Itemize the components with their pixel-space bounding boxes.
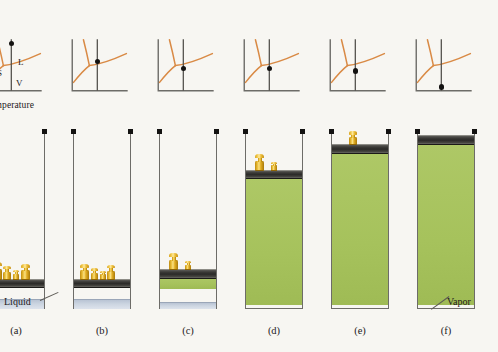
- phase-region-label-liquid: L: [18, 57, 24, 67]
- liquid-region: [160, 302, 215, 309]
- cylinder-wall-right: [216, 131, 217, 308]
- callout-liquid: Liquid: [4, 296, 31, 307]
- weight-body: [0, 269, 2, 280]
- phase-curve-2: [433, 54, 470, 66]
- cylinder-cap-right: [128, 129, 133, 134]
- weight-4: [107, 265, 115, 279]
- cylinder-floor: [417, 308, 475, 309]
- weight-body: [185, 265, 191, 270]
- state-point-marker-d: [267, 66, 272, 71]
- weight-2: [185, 261, 191, 269]
- weight-top: [21, 264, 30, 268]
- cylinder-wall-right: [130, 131, 131, 308]
- weight-body: [21, 270, 30, 279]
- weight-body: [3, 272, 11, 280]
- cylinder-c: [159, 131, 217, 310]
- weight-body: [107, 271, 115, 280]
- cylinder-wall-right: [474, 131, 475, 308]
- piston: [332, 144, 387, 154]
- vapor-region: [332, 152, 387, 305]
- phase-diagram-f: [407, 38, 473, 98]
- weight-3: [13, 270, 19, 279]
- panel-label-b: (b): [73, 325, 131, 336]
- cylinder-b: [73, 131, 131, 310]
- phase-diagram-b: [63, 38, 129, 98]
- cylinder-f: [417, 131, 475, 310]
- weight-top: [3, 266, 11, 269]
- weight-top: [169, 253, 178, 257]
- weight-top: [349, 131, 357, 134]
- phase-curve-2: [347, 54, 384, 66]
- cylinder-e: [331, 131, 389, 310]
- phase-curve-0: [255, 40, 261, 66]
- cylinder-wall-right: [388, 131, 389, 308]
- vapor-region: [246, 177, 301, 304]
- weight-top: [91, 268, 98, 271]
- weight-body: [349, 137, 357, 145]
- weight-body: [271, 165, 277, 170]
- weight-body: [169, 260, 178, 270]
- weight-2: [271, 162, 277, 170]
- weight-body: [255, 161, 264, 171]
- phase-diagram-d: [235, 38, 301, 98]
- weight-top: [271, 162, 277, 164]
- liquid-region: [74, 299, 129, 309]
- figure-canvas: SLVPressureTemperature(a)(b)(c)(d)(e)(f)…: [0, 0, 498, 352]
- phase-curve-0: [83, 40, 89, 66]
- cylinder-cap-left: [329, 129, 334, 134]
- weight-1: [0, 262, 2, 279]
- weight-body: [91, 273, 98, 280]
- piston: [246, 170, 301, 180]
- weight-1: [349, 131, 357, 144]
- state-point-marker-c: [181, 66, 186, 71]
- phase-curve-1: [332, 66, 348, 83]
- phase-diagram-e: [321, 38, 387, 98]
- weight-top: [107, 265, 115, 269]
- cylinder-wall-right: [44, 131, 45, 308]
- phase-curve-0: [427, 40, 433, 66]
- weight-3: [100, 271, 106, 279]
- panel-label-c: (c): [159, 325, 217, 336]
- weight-body: [80, 270, 89, 279]
- weight-4: [21, 264, 30, 279]
- weight-1: [80, 264, 89, 279]
- phase-curve-1: [418, 66, 434, 83]
- phase-curve-1: [160, 66, 176, 83]
- panel-label-d: (d): [245, 325, 303, 336]
- cylinder-cap-right: [42, 129, 47, 134]
- cylinder-d: [245, 131, 303, 310]
- piston: [418, 135, 473, 145]
- panel-label-e: (e): [331, 325, 389, 336]
- weight-neck: [109, 268, 113, 272]
- phase-diagram-a: SLV: [0, 38, 43, 98]
- piston: [160, 269, 215, 279]
- piston: [0, 279, 44, 289]
- cylinder-cap-left: [157, 129, 162, 134]
- phase-curve-0: [341, 40, 347, 66]
- weight-top: [80, 264, 89, 268]
- phase-curve-2: [175, 54, 212, 66]
- vapor-region: [418, 143, 473, 305]
- phase-diagram-c: [149, 38, 215, 98]
- phase-curve-0: [169, 40, 175, 66]
- weight-body: [13, 274, 19, 280]
- axis-label-temperature: Temperature: [0, 100, 34, 110]
- weight-top: [255, 154, 264, 158]
- cylinder-floor: [331, 308, 389, 309]
- phase-curve-0: [0, 40, 3, 66]
- weight-body: [100, 274, 106, 279]
- weight-top: [185, 261, 191, 263]
- cylinder-wall-right: [302, 131, 303, 308]
- cylinder-cap-right: [386, 129, 391, 134]
- phase-curve-1: [74, 66, 90, 83]
- cylinder-floor: [245, 308, 303, 309]
- callout-vapor: Vapor: [447, 296, 471, 307]
- state-point-marker-e: [353, 68, 358, 73]
- phase-diagram-plot-b: [63, 38, 129, 98]
- weight-top: [100, 271, 106, 273]
- phase-region-label-solid: S: [0, 68, 2, 78]
- cylinder-cap-left: [415, 129, 420, 134]
- weight-2: [91, 268, 98, 279]
- weight-1: [169, 253, 178, 269]
- phase-curve-1: [246, 66, 262, 83]
